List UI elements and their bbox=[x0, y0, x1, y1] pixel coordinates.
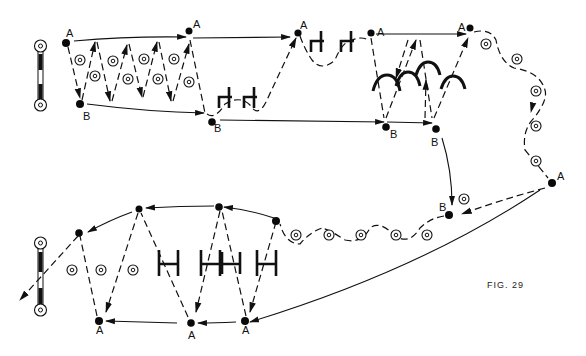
circle-target bbox=[75, 55, 85, 65]
label-a: A bbox=[377, 26, 385, 38]
figure-caption: FIG. 29 bbox=[487, 280, 524, 290]
label-a: A bbox=[66, 27, 74, 39]
label-b: B bbox=[439, 201, 446, 213]
circle-target bbox=[531, 156, 541, 166]
h-gate bbox=[222, 252, 240, 274]
circle-target bbox=[459, 194, 469, 204]
circle-target bbox=[108, 56, 118, 66]
point-b bbox=[382, 123, 390, 131]
circle-target bbox=[422, 230, 432, 240]
point bbox=[215, 203, 223, 211]
circle-target bbox=[184, 77, 194, 87]
label-a: A bbox=[188, 329, 196, 341]
circle-targets bbox=[67, 39, 541, 275]
circle-target bbox=[531, 86, 541, 96]
h-gate bbox=[159, 250, 178, 276]
h-gates bbox=[159, 250, 276, 276]
point-a bbox=[186, 28, 193, 35]
circle-target bbox=[324, 230, 334, 240]
point bbox=[136, 206, 143, 213]
point-a bbox=[62, 39, 70, 47]
circle-target bbox=[391, 230, 401, 240]
points bbox=[62, 25, 556, 327]
circle-target bbox=[531, 121, 541, 131]
label-a: A bbox=[96, 324, 104, 336]
circle-target bbox=[139, 54, 149, 64]
circle-target bbox=[67, 265, 77, 275]
circle-target bbox=[481, 39, 491, 49]
circle-target bbox=[128, 265, 138, 275]
point-a bbox=[467, 25, 474, 32]
arch-gates bbox=[373, 62, 465, 91]
circle-target bbox=[291, 230, 301, 240]
point-labels: A B A B A A B A B A B A A A bbox=[66, 18, 565, 341]
circle-target bbox=[96, 265, 106, 275]
point bbox=[272, 217, 280, 225]
circle-target bbox=[123, 74, 133, 84]
figure-29-diagram: A B A B A A B A B A B A A A FIG. 29 bbox=[0, 0, 586, 356]
point-a bbox=[367, 29, 374, 36]
label-a: A bbox=[458, 21, 466, 33]
point-b bbox=[432, 125, 440, 133]
h-gate bbox=[201, 250, 220, 276]
arch-gate bbox=[416, 62, 440, 75]
bracket-gates bbox=[219, 31, 354, 108]
post-top-left bbox=[35, 40, 47, 111]
point-a bbox=[187, 319, 195, 327]
circle-target bbox=[512, 54, 522, 64]
circle-target bbox=[169, 54, 179, 64]
circle-target bbox=[153, 74, 163, 84]
label-a: A bbox=[242, 324, 250, 336]
bracket-gate bbox=[219, 87, 232, 108]
bracket-gate bbox=[341, 31, 354, 52]
label-b: B bbox=[214, 122, 221, 134]
solid-paths bbox=[74, 34, 540, 323]
point-a bbox=[548, 179, 556, 187]
point-b bbox=[76, 100, 84, 108]
label-b: B bbox=[431, 136, 438, 148]
label-a: A bbox=[300, 19, 308, 31]
label-a: A bbox=[193, 18, 201, 30]
circle-target bbox=[90, 71, 100, 81]
arch-gate bbox=[441, 76, 465, 89]
label-a: A bbox=[557, 170, 565, 182]
label-b: B bbox=[390, 128, 397, 140]
bracket-gate bbox=[311, 31, 324, 52]
label-b: B bbox=[83, 110, 90, 122]
circle-target bbox=[356, 230, 366, 240]
point bbox=[75, 229, 83, 237]
